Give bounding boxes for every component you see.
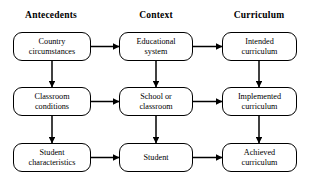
node-educational-system: Educational system	[119, 32, 193, 61]
flowchart-figure: AntecedentsContextCurriculum Country cir…	[0, 0, 311, 193]
node-label-educational-system: Educational system	[133, 37, 178, 55]
node-achieved-curriculum: Achieved curriculum	[222, 143, 297, 172]
column-header-context: Context	[139, 10, 173, 20]
node-country-circumstances: Country circumstances	[13, 32, 91, 61]
node-label-student: Student	[140, 153, 171, 162]
node-label-classroom-conditions: Classroom conditions	[31, 92, 72, 110]
column-header-curriculum: Curriculum	[234, 10, 285, 20]
node-label-school-or-classroom: School or classroom	[136, 92, 175, 110]
node-school-or-classroom: School or classroom	[119, 87, 193, 116]
node-label-student-characteristics: Student characteristics	[26, 148, 79, 166]
node-label-country-circumstances: Country circumstances	[26, 37, 78, 55]
node-student-characteristics: Student characteristics	[13, 143, 91, 172]
node-label-implemented-curriculum: Implemented curriculum	[235, 92, 284, 110]
node-student: Student	[119, 143, 193, 172]
node-intended-curriculum: Intended curriculum	[222, 32, 297, 61]
node-label-intended-curriculum: Intended curriculum	[239, 37, 281, 55]
node-classroom-conditions: Classroom conditions	[13, 87, 91, 116]
node-label-achieved-curriculum: Achieved curriculum	[239, 148, 281, 166]
column-header-antecedents: Antecedents	[25, 10, 77, 20]
node-implemented-curriculum: Implemented curriculum	[222, 87, 297, 116]
